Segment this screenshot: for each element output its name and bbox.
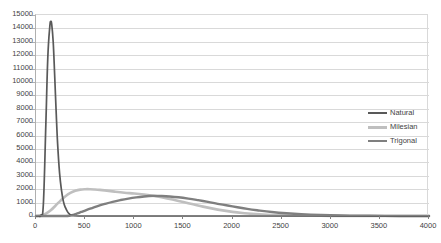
x-tick <box>428 215 429 219</box>
y-axis-tick-label: 5000 <box>0 144 33 152</box>
x-axis-tick-label: 3500 <box>359 222 399 230</box>
x-tick <box>182 215 183 219</box>
x-axis-tick-label: 0 <box>15 222 55 230</box>
y-axis-tick-label: 13000 <box>0 37 33 45</box>
x-axis-tick-label: 2500 <box>261 222 301 230</box>
x-axis-tick-label: 1000 <box>113 222 153 230</box>
legend-swatch-icon <box>368 112 387 114</box>
y-axis-tick-label: 11000 <box>0 64 33 72</box>
y-axis-tick-label: 6000 <box>0 131 33 139</box>
y-axis-tick-label: 9000 <box>0 90 33 98</box>
legend-label: Trigonal <box>390 137 417 145</box>
legend-label: Milesian <box>390 123 418 131</box>
y-axis-tick-label: 3000 <box>0 171 33 179</box>
chart-container: 0100020003000400050006000700080009000100… <box>0 0 441 243</box>
legend-item-natural[interactable]: Natural <box>368 106 436 120</box>
legend-item-milesian[interactable]: Milesian <box>368 120 436 134</box>
x-axis-tick-label: 3000 <box>310 222 350 230</box>
y-axis-tick-label: 12000 <box>0 50 33 58</box>
x-tick <box>35 215 36 219</box>
y-axis-tick-label: 10000 <box>0 77 33 85</box>
y-axis-tick-label: 2000 <box>0 184 33 192</box>
y-axis-tick-label: 14000 <box>0 23 33 31</box>
x-tick <box>330 215 331 219</box>
series-line-milesian <box>36 189 429 216</box>
x-axis-tick-label: 2000 <box>212 222 252 230</box>
x-axis-tick-label: 1500 <box>162 222 202 230</box>
legend-swatch-icon <box>368 126 387 129</box>
y-axis-tick-label: 7000 <box>0 117 33 125</box>
x-tick <box>84 215 85 219</box>
y-axis-tick-label: 15000 <box>0 10 33 18</box>
y-axis-tick-label: 4000 <box>0 157 33 165</box>
x-axis-tick-label: 4000 <box>408 222 441 230</box>
x-tick <box>133 215 134 219</box>
legend-item-trigonal[interactable]: Trigonal <box>368 134 436 148</box>
chart-legend: NaturalMilesianTrigonal <box>368 106 436 148</box>
legend-swatch-icon <box>368 140 387 142</box>
x-tick <box>379 215 380 219</box>
y-axis-tick-label: 1000 <box>0 198 33 206</box>
y-axis-tick-label: 0 <box>0 211 33 219</box>
legend-label: Natural <box>390 109 414 117</box>
x-axis-tick-label: 500 <box>64 222 104 230</box>
x-tick <box>232 215 233 219</box>
x-tick <box>281 215 282 219</box>
y-axis-tick-label: 8000 <box>0 104 33 112</box>
